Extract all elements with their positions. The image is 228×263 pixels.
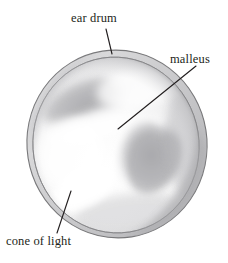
shadow-vignette bbox=[20, 45, 211, 245]
ear-drum-illustration bbox=[0, 0, 228, 263]
label-cone-of-light: cone of light bbox=[6, 234, 71, 248]
label-ear-drum: ear drum bbox=[71, 11, 117, 25]
figure-container: ear drum malleus cone of light bbox=[0, 0, 228, 263]
label-malleus: malleus bbox=[170, 52, 210, 66]
ear-drum-membrane bbox=[13, 37, 220, 251]
membrane-shading bbox=[20, 45, 211, 245]
